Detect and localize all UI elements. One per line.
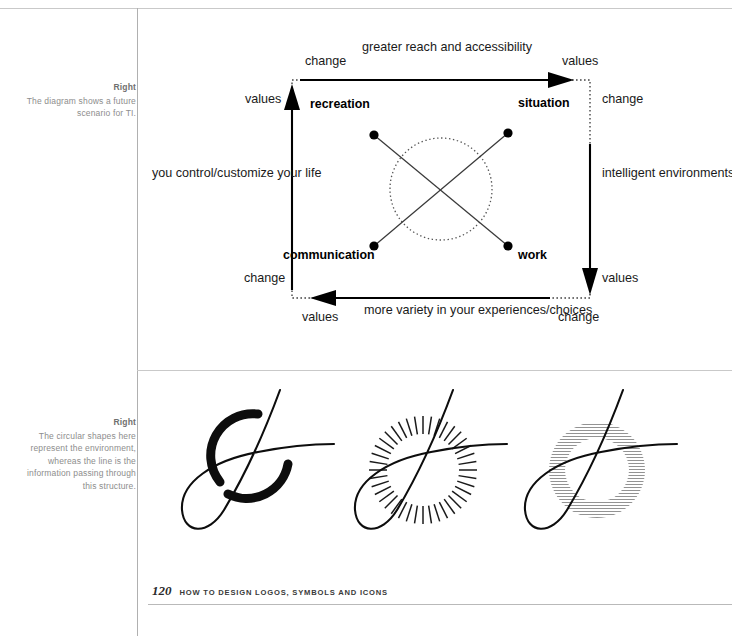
column-divider	[137, 8, 138, 636]
axis-label-bottom-right-outer: values	[602, 271, 638, 286]
mark-ticks-2	[369, 416, 477, 524]
caption-diagram: Right The diagram shows a future scenari…	[18, 81, 136, 120]
mark-ring-3	[505, 382, 685, 547]
node-label-situation: situation	[518, 96, 570, 110]
caption-marks: Right The circular shapes here represent…	[18, 416, 136, 492]
mark-radial-ticks	[335, 382, 515, 547]
axis-label-bottom-left-outer: change	[244, 271, 285, 286]
arrow-bottom-head	[310, 290, 336, 306]
page-top-rule	[0, 8, 732, 9]
axis-label-top-left-outer: change	[305, 54, 346, 69]
footer-rule	[148, 604, 732, 605]
caption-heading: Right	[18, 416, 136, 429]
axis-label-top-center: greater reach and accessibility	[362, 40, 522, 55]
node-label-recreation: recreation	[310, 97, 370, 111]
axis-label-top-left-inner: values	[245, 92, 281, 107]
caption-body: The diagram shows a future scenario for …	[27, 96, 136, 119]
mark-arc-lower-1	[228, 464, 288, 498]
mark-arc-upper-1	[211, 414, 258, 482]
running-head: HOW TO DESIGN LOGOS, SYMBOLS AND ICONS	[180, 588, 388, 597]
axis-label-bottom-right-inner: change	[558, 310, 599, 325]
mark-hatched-ring	[505, 382, 685, 547]
caption-heading: Right	[18, 81, 136, 94]
mark-line-2	[355, 390, 507, 529]
node-dot-work	[503, 241, 512, 250]
axis-label-bottom-left-inner: values	[302, 310, 338, 325]
node-dot-situation	[503, 128, 512, 137]
page-footer: 120 HOW TO DESIGN LOGOS, SYMBOLS AND ICO…	[152, 583, 388, 599]
caption-body: The circular shapes here represent the e…	[27, 431, 136, 491]
axis-label-bottom-center: more variety in your experiences/choices	[364, 303, 520, 318]
mark-solid-arc	[162, 382, 342, 547]
scenario-diagram: change values greater reach and accessib…	[150, 18, 720, 358]
node-dot-recreation	[369, 130, 378, 139]
arrow-left-head	[284, 84, 300, 110]
node-label-work: work	[518, 248, 547, 262]
arrow-top-head	[548, 72, 574, 88]
section-divider-rule	[137, 370, 732, 371]
axis-label-right-middle: intelligent environments	[602, 166, 720, 181]
axis-label-top-right-outer: values	[562, 54, 598, 69]
mark-variants-row	[150, 382, 722, 562]
axis-label-left-middle: you control/customize your life	[152, 166, 284, 181]
page-number: 120	[152, 583, 172, 599]
axis-label-top-right-inner: change	[602, 92, 643, 107]
node-label-communication: communication	[283, 248, 375, 262]
arrow-right-head	[582, 268, 598, 295]
